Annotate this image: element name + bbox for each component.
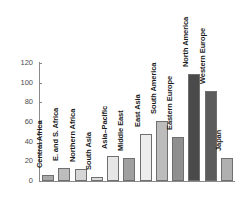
bar[interactable] [42, 175, 54, 181]
bar-category-label: South Asia [85, 132, 93, 170]
bar-chart: 020406080100120 Central AfricaE. and S. … [0, 0, 240, 198]
bar[interactable] [58, 168, 70, 181]
bar-category-label: North America [182, 17, 190, 67]
y-axis-tick-label: 60 [13, 118, 33, 126]
bar[interactable] [107, 156, 119, 181]
y-axis-tick-label: 20 [13, 157, 33, 165]
bar[interactable] [123, 158, 135, 181]
bar-category-label: Asia–Pacific [101, 106, 109, 149]
bar-category-label: Middle East [117, 111, 125, 152]
bar-category-label: Western Europe [199, 28, 207, 84]
bar[interactable] [172, 137, 184, 181]
bar-category-label: Northern Africa [69, 109, 77, 162]
bar-slot: Eastern Europe [170, 58, 186, 181]
bar[interactable] [188, 74, 200, 181]
bar-category-label: South America [150, 63, 158, 114]
bar[interactable] [221, 158, 233, 181]
bar[interactable] [140, 134, 152, 181]
bar-series: Central AfricaE. and S. AfricaNorthern A… [40, 58, 235, 181]
bar-category-label: Eastern Europe [166, 76, 174, 130]
bar-category-label: Central Africa [36, 121, 44, 169]
bar-category-label: Japan [215, 130, 223, 151]
y-axis-tick-label: 0 [13, 177, 33, 185]
y-axis-tick-label: 80 [13, 98, 33, 106]
bar-category-label: E. and S. Africa [52, 108, 60, 161]
bar[interactable] [156, 121, 168, 181]
y-axis-tick-label: 120 [13, 59, 33, 67]
bar-slot: Japan [219, 58, 235, 181]
y-axis-tick [39, 181, 42, 182]
bar-slot: Western Europe [203, 58, 219, 181]
bar[interactable] [91, 177, 103, 181]
bar[interactable] [75, 169, 87, 181]
bar-category-label: East Asia [134, 94, 142, 127]
y-axis-tick-label: 40 [13, 138, 33, 146]
y-axis-tick-label: 100 [13, 79, 33, 87]
